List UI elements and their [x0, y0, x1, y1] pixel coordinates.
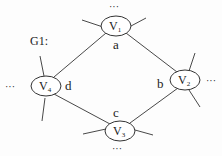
edge-v1-v2 [126, 33, 177, 72]
ellipsis-bottom: ··· [112, 143, 122, 154]
edge-label-b: b [157, 76, 164, 91]
edge-label-d: d [65, 78, 72, 93]
ellipsis-left: ··· [5, 81, 15, 92]
ellipsis-right: ··· [206, 75, 216, 86]
edge-v4-v3 [54, 94, 110, 124]
edge-label-c: c [113, 105, 119, 120]
edge-v1-v4 [54, 33, 106, 77]
graph-label: G1: [30, 34, 48, 48]
edge-v2-v3 [130, 88, 178, 123]
graph-canvas: V1 V2 V3 V4 a b c d G1: ··· ··· ··· ··· [0, 0, 222, 156]
edge-label-a: a [113, 37, 119, 52]
ellipsis-top: ··· [109, 1, 119, 12]
graph-diagram: V1 V2 V3 V4 a b c d G1: ··· ··· ··· ··· [0, 0, 222, 156]
